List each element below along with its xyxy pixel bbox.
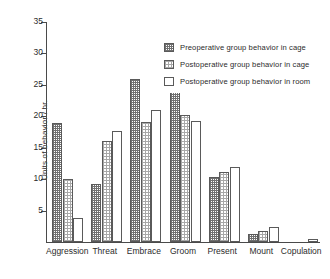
bar-chart-figure: Units of behavior / hr. 5101520253035 Ag…: [0, 0, 330, 279]
bar: [230, 167, 240, 242]
y-tick-label: 30: [34, 47, 43, 57]
bar: [269, 227, 279, 242]
bar-group-aggression: [52, 22, 83, 242]
bar: [151, 110, 161, 242]
x-tick-label-threat: Threat: [85, 246, 124, 256]
legend-label: Postoperative group behavior in cage: [180, 60, 309, 69]
bar-group-embrace: [130, 22, 161, 242]
x-tick-label-mount: Mount: [242, 246, 281, 256]
bar: [52, 123, 62, 242]
legend-label: Postoperative group behavior in room: [180, 77, 310, 86]
y-tick-label: 20: [34, 110, 43, 120]
legend-item-0: Preoperative group behavior in cage: [164, 40, 319, 55]
bar: [209, 177, 219, 242]
x-tick-label-embrace: Embrace: [124, 246, 163, 256]
x-tick-label-groom: Groom: [163, 246, 202, 256]
legend-swatch-icon: [164, 77, 174, 86]
legend-item-1: Postoperative group behavior in cage: [164, 57, 319, 72]
x-tick-label-present: Present: [203, 246, 242, 256]
bar: [73, 218, 83, 243]
bar: [63, 179, 73, 242]
x-tick-label-copulation: Copulation: [281, 246, 320, 256]
bar: [248, 234, 258, 242]
bar: [102, 141, 112, 242]
bar: [219, 172, 229, 242]
x-tick-label-aggression: Aggression: [46, 246, 85, 256]
bar: [141, 122, 151, 242]
bar-group-threat: [91, 22, 122, 242]
bar: [258, 231, 268, 242]
bar: [130, 79, 140, 242]
legend-item-2: Postoperative group behavior in room: [164, 74, 319, 89]
bar: [308, 239, 318, 242]
bar: [191, 121, 201, 242]
bar: [91, 184, 101, 242]
y-tick-label: 35: [34, 16, 43, 26]
bar: [180, 115, 190, 242]
y-tick-label: 15: [34, 142, 43, 152]
y-tick-label: 5: [38, 205, 43, 215]
legend-label: Preoperative group behavior in cage: [180, 43, 306, 52]
x-axis-line: [46, 242, 320, 243]
y-tick-label: 10: [34, 173, 43, 183]
legend-swatch-icon: [164, 60, 174, 69]
chart-legend: Preoperative group behavior in cagePosto…: [160, 36, 322, 93]
legend-swatch-icon: [164, 43, 174, 52]
bar: [112, 131, 122, 242]
y-tick-label: 25: [34, 79, 43, 89]
